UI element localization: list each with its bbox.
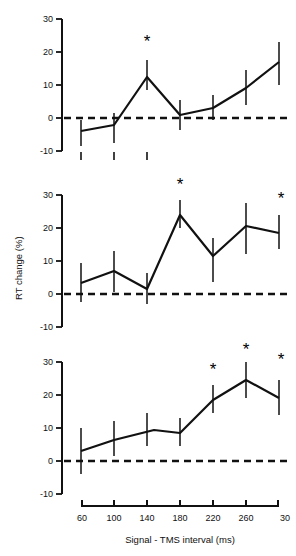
panel-top-significance-star-140: * — [144, 32, 151, 51]
panel-top-ylabel-10: 10 — [43, 80, 53, 90]
x-tick-label-100: 100 — [106, 513, 121, 523]
panel-top-x-stubs — [81, 152, 147, 160]
panel-bottom: 30 20 10 0 -10 * * * — [40, 340, 292, 499]
panel-bottom-significance-star-260: * — [243, 340, 250, 359]
panel-middle-ylabel-neg10: -10 — [40, 322, 53, 332]
panel-bottom-significance-star-220: * — [210, 360, 217, 379]
panel-top-ylabel-30: 30 — [43, 14, 53, 24]
panel-bottom-ylabel-20: 20 — [43, 390, 53, 400]
panel-top-ylabel-0: 0 — [48, 113, 53, 123]
x-tick-label-140: 140 — [139, 513, 154, 523]
panel-top: 30 20 10 0 -10 * — [40, 14, 292, 160]
panel-top-ylabel-neg10: -10 — [40, 146, 53, 156]
figure-container: 30 20 10 0 -10 * — [0, 0, 296, 556]
figure-svg: 30 20 10 0 -10 * — [0, 0, 296, 556]
panel-middle-significance-star-300: * — [278, 189, 285, 208]
panel-bottom-ylabel-10: 10 — [43, 423, 53, 433]
panel-middle-ylabel-10: 10 — [43, 256, 53, 266]
x-axis-title: Signal - TMS interval (ms) — [125, 534, 235, 545]
panel-middle-ylabel-20: 20 — [43, 223, 53, 233]
panel-middle-ylabel-30: 30 — [43, 190, 53, 200]
x-axis: 60 100 140 180 220 260 30 Signal - TMS i… — [77, 500, 290, 545]
y-axis-title: RT change (%) — [13, 236, 24, 300]
x-tick-label-220: 220 — [205, 513, 220, 523]
x-tick-label-260: 260 — [238, 513, 253, 523]
panel-top-error-bars — [81, 42, 279, 146]
panel-bottom-significance-star-300: * — [278, 350, 285, 369]
panel-top-ylabel-20: 20 — [43, 47, 53, 57]
x-tick-label-60: 60 — [77, 513, 87, 523]
panel-middle-ylabel-0: 0 — [48, 289, 53, 299]
panel-middle-significance-star-180: * — [177, 175, 184, 194]
panel-bottom-error-bars — [81, 362, 279, 474]
x-tick-label-180: 180 — [172, 513, 187, 523]
panel-middle: 30 20 10 0 -10 RT change (%) * * — [13, 175, 292, 332]
panel-bottom-ylabel-neg10: -10 — [40, 489, 53, 499]
panel-bottom-ylabel-0: 0 — [48, 456, 53, 466]
panel-bottom-ylabel-30: 30 — [43, 357, 53, 367]
x-tick-label-300: 30 — [280, 513, 290, 523]
